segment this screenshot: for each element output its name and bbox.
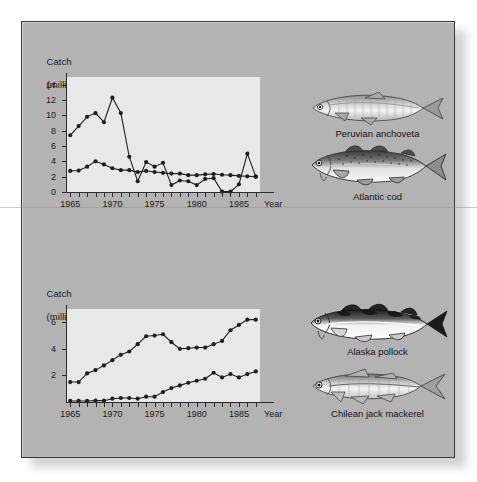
data-point-marker	[161, 161, 165, 165]
y-tick-label: 4	[34, 157, 56, 166]
x-tick	[163, 403, 164, 407]
data-point-marker	[237, 375, 241, 379]
x-tick	[87, 403, 88, 407]
x-tick	[230, 193, 231, 197]
y-tick-label: 6	[34, 318, 56, 327]
x-tick	[188, 403, 189, 407]
data-point-marker	[195, 345, 199, 349]
data-point-marker	[110, 96, 114, 100]
data-point-marker	[68, 133, 72, 137]
y-tick	[62, 192, 66, 193]
data-point-marker	[119, 353, 123, 357]
data-point-marker	[136, 170, 140, 174]
data-point-marker	[144, 160, 148, 164]
data-point-marker	[203, 177, 207, 181]
x-tick	[214, 403, 215, 407]
data-point-marker	[85, 165, 89, 169]
fish-caption-mackerel: Chilean jack mackerel	[305, 408, 450, 419]
data-point-marker	[237, 182, 241, 186]
x-tick	[239, 193, 240, 197]
fish-caption-cod: Atlantic cod	[305, 191, 450, 202]
x-tick	[197, 403, 198, 407]
data-point-marker	[186, 179, 190, 183]
data-point-marker	[161, 332, 165, 336]
x-tick	[112, 193, 113, 197]
data-point-marker	[110, 358, 114, 362]
x-tick	[146, 403, 147, 407]
x-tick	[79, 403, 80, 407]
x-tick	[171, 403, 172, 407]
data-point-marker	[127, 349, 131, 353]
x-tick-label: 1970	[95, 410, 129, 419]
data-point-marker	[144, 334, 148, 338]
data-point-marker	[77, 124, 81, 128]
fish-illustration-mackerel: Chilean jack mackerel	[305, 366, 450, 424]
data-point-marker	[93, 368, 97, 372]
data-point-marker	[161, 171, 165, 175]
x-tick	[121, 193, 122, 197]
x-tick	[96, 193, 97, 197]
x-tick	[180, 403, 181, 407]
data-point-marker	[254, 175, 258, 179]
data-point-marker	[237, 323, 241, 327]
fish-pollock-icon	[305, 302, 450, 344]
x-tick	[214, 193, 215, 197]
data-point-marker	[245, 152, 249, 156]
x-tick	[129, 193, 130, 197]
data-point-marker	[186, 173, 190, 177]
data-point-marker	[254, 369, 258, 373]
y-tick-label: 10	[34, 111, 56, 120]
data-point-marker	[136, 397, 140, 401]
data-point-marker	[110, 397, 114, 401]
data-point-marker	[237, 174, 241, 178]
y-tick-label: 4	[34, 345, 56, 354]
data-point-marker	[136, 179, 140, 183]
data-point-marker	[169, 386, 173, 390]
x-tick	[256, 193, 257, 197]
y-tick	[62, 375, 66, 376]
x-tick	[222, 193, 223, 197]
x-tick	[104, 403, 105, 407]
chart-top-series-layer	[30, 44, 300, 249]
figure-root: Catch (million tonnes) 02468101214196519…	[0, 0, 477, 482]
x-tick	[256, 403, 257, 407]
x-tick	[222, 403, 223, 407]
x-tick	[146, 193, 147, 197]
data-point-marker	[119, 168, 123, 172]
x-tick	[171, 193, 172, 197]
x-axis-line	[66, 402, 274, 403]
data-point-marker	[169, 183, 173, 187]
y-tick	[62, 115, 66, 116]
data-point-marker	[254, 318, 258, 322]
image-seam-line	[0, 207, 477, 208]
x-tick	[163, 193, 164, 197]
data-point-marker	[186, 381, 190, 385]
y-tick	[62, 161, 66, 162]
data-point-marker	[85, 371, 89, 375]
y-axis-line	[66, 73, 67, 192]
data-point-marker	[178, 347, 182, 351]
chart-bottom: Catch (million tonnes) 24619651970197519…	[30, 276, 300, 446]
data-point-marker	[152, 165, 156, 169]
data-point-marker	[152, 170, 156, 174]
x-tick	[121, 403, 122, 407]
data-point-marker	[245, 174, 249, 178]
x-tick-label: 1980	[180, 410, 214, 419]
data-point-marker	[212, 176, 216, 180]
data-point-marker	[127, 168, 131, 172]
x-tick-label: 1975	[138, 410, 172, 419]
data-point-marker	[178, 178, 182, 182]
x-tick-label: 1965	[53, 410, 87, 419]
x-tick	[180, 193, 181, 197]
data-point-marker	[77, 380, 81, 384]
series-line	[70, 98, 256, 192]
data-point-marker	[245, 318, 249, 322]
data-point-marker	[68, 380, 72, 384]
data-point-marker	[203, 345, 207, 349]
x-tick	[70, 403, 71, 407]
data-point-marker	[127, 155, 131, 159]
fish-anchovy-icon	[305, 88, 450, 126]
y-tick-label: 2	[34, 371, 56, 380]
x-tick	[138, 193, 139, 197]
data-point-marker	[186, 346, 190, 350]
